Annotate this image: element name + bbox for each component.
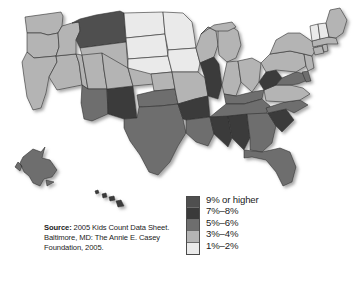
map-legend: 9% or higher 7%–8% 5%–6% 3%–4% 1%–2% — [186, 196, 259, 255]
state-IN — [222, 61, 241, 96]
state-CT — [313, 46, 324, 55]
state-AL — [228, 114, 250, 150]
legend-label-3-4: 3%–4% — [206, 228, 259, 239]
legend-swatch-9-or-higher — [187, 197, 199, 208]
state-WA — [25, 12, 63, 35]
legend-label-9-or-higher: 9% or higher — [206, 194, 259, 205]
legend-label-1-2: 1%–2% — [206, 240, 259, 251]
state-SD — [126, 34, 168, 59]
state-ND — [124, 12, 165, 38]
source-label: Source: — [44, 223, 72, 232]
legend-label-column: 9% or higher 7%–8% 5%–6% 3%–4% 1%–2% — [206, 194, 259, 251]
state-FL — [244, 148, 296, 186]
state-IA — [168, 48, 200, 72]
state-KS — [151, 72, 175, 91]
state-MN — [163, 12, 196, 50]
legend-swatch-3-4 — [187, 231, 199, 242]
state-OR — [27, 33, 59, 58]
state-VA — [264, 85, 310, 102]
state-AK — [15, 147, 57, 186]
legend-swatch-1-2 — [187, 243, 199, 254]
legend-swatch-5-6 — [187, 220, 199, 231]
state-LA — [186, 117, 214, 146]
legend-swatch-7-8 — [187, 208, 199, 219]
state-PA — [261, 51, 306, 72]
state-ME — [326, 8, 347, 38]
source-note: Source: 2005 Kids Count Data Sheet. Balt… — [44, 223, 184, 254]
state-MT — [72, 11, 126, 48]
legend-swatch-column — [186, 196, 200, 255]
state-AZ — [81, 85, 108, 121]
legend-label-5-6: 5%–6% — [206, 217, 259, 228]
legend-label-7-8: 7%–8% — [206, 205, 259, 216]
state-NJ — [304, 54, 314, 71]
state-OH — [238, 58, 261, 92]
state-NM — [107, 86, 137, 119]
choropleth-figure: 9% or higher 7%–8% 5%–6% 3%–4% 1%–2% Sou… — [0, 0, 357, 283]
state-OK — [137, 89, 178, 107]
state-HI — [95, 190, 124, 207]
